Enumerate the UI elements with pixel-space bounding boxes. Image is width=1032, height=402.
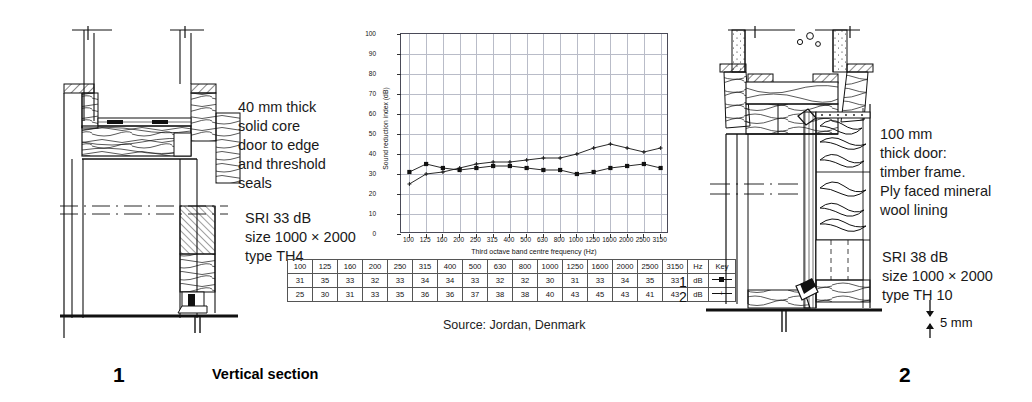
table-value-cell: 43 — [563, 288, 588, 302]
left-detail-description: 40 mm thick solid core door to edge and … — [238, 98, 368, 193]
table-value-cell: 32 — [513, 274, 538, 288]
table-value-cell: 35 — [313, 274, 338, 288]
data-point-marker — [474, 162, 478, 166]
table-header-cell: 400 — [438, 260, 463, 274]
table-value-cell: 33 — [338, 274, 363, 288]
table-row-number-1: 1 — [679, 274, 687, 290]
y-axis-tick-label: 80 — [356, 70, 376, 77]
y-axis-tick-label: 100 — [356, 30, 376, 37]
table-value-cell: 37 — [463, 288, 488, 302]
table-value-cell: 35 — [388, 288, 413, 302]
left-detail-performance: SRI 33 dB size 1000 × 2000 type TH4 — [245, 209, 385, 266]
caption-number-right: 2 — [899, 363, 911, 387]
table-header-cell: 630 — [488, 260, 513, 274]
data-point-marker — [525, 158, 529, 162]
table-value-cell: 25 — [288, 288, 313, 302]
table-value-cell: 34 — [413, 274, 438, 288]
table-value-cell: 36 — [413, 288, 438, 302]
y-axis-tick-label: 0 — [356, 230, 376, 237]
right-vertical-section-drawing — [700, 8, 885, 340]
source-note: Source: Jordan, Denmark — [443, 318, 585, 332]
table-value-cell: 34 — [613, 274, 638, 288]
data-table: 1001251602002503154005006308001000125016… — [287, 259, 736, 302]
table-value-cell: 31 — [338, 288, 363, 302]
chart-plot-area — [400, 33, 668, 233]
table-value-cell: 38 — [488, 288, 513, 302]
y-axis-tick-label: 10 — [356, 210, 376, 217]
table-value-cell: 43 — [613, 288, 638, 302]
chart-y-axis: Sound reduction index (dB) — [376, 33, 388, 233]
table-header-cell: 125 — [313, 260, 338, 274]
data-point-marker — [541, 156, 545, 160]
table-header-cell: 250 — [388, 260, 413, 274]
y-axis-tick-label: 30 — [356, 170, 376, 177]
data-point-marker — [508, 164, 512, 168]
table-header-cell: 1000 — [538, 260, 563, 274]
x-axis-tick-label: 125 — [420, 236, 431, 243]
data-point-marker — [642, 150, 646, 154]
left-vertical-section-drawing — [52, 18, 242, 338]
data-point-marker — [625, 146, 629, 150]
table-value-cell: 31 — [563, 274, 588, 288]
table-header-cell: 800 — [513, 260, 538, 274]
table-row-number-2: 2 — [679, 289, 687, 305]
table-value-cell: 35 — [638, 274, 663, 288]
table-header-row: 1001251602002503154005006308001000125016… — [288, 260, 736, 274]
right-detail-performance: SRI 38 dB size 1000 × 2000 type TH 10 — [882, 248, 1032, 305]
y-axis-label: Sound reduction index (dB) — [382, 36, 389, 222]
x-axis-tick-label: 400 — [503, 236, 514, 243]
caption-text-left: Vertical section — [212, 366, 318, 382]
table-header-cell: 1250 — [563, 260, 588, 274]
y-axis-tick-label: 50 — [356, 130, 376, 137]
x-axis-tick-label: 250 — [470, 236, 481, 243]
x-axis-tick-label: 1250 — [585, 236, 599, 243]
data-point-marker — [575, 152, 579, 156]
data-point-marker — [659, 146, 663, 150]
data-point-marker — [407, 182, 411, 186]
series-line-1 — [409, 164, 660, 174]
data-point-marker — [592, 146, 596, 150]
data-point-marker — [474, 166, 478, 170]
table-header-cell: 315 — [413, 260, 438, 274]
table-value-cell: 33 — [388, 274, 413, 288]
series-line-2 — [409, 144, 660, 184]
table-value-cell: 30 — [313, 288, 338, 302]
x-axis-tick-label: 3150 — [652, 236, 666, 243]
caption-number-left: 1 — [113, 363, 125, 387]
x-axis-tick-label: 160 — [436, 236, 447, 243]
table-value-cell: 32 — [363, 274, 388, 288]
table-header-cell: 200 — [363, 260, 388, 274]
x-axis-tick-label: 1600 — [602, 236, 616, 243]
table-value-cell: 38 — [513, 288, 538, 302]
sound-reduction-chart: Sound reduction index (dB) Third octave … — [378, 22, 678, 262]
data-point-marker — [592, 170, 596, 174]
data-point-marker — [491, 164, 495, 168]
data-point-marker — [424, 162, 428, 166]
data-point-marker — [575, 172, 579, 176]
table-header-cell: 2500 — [638, 260, 663, 274]
y-axis-tick-label: 70 — [356, 90, 376, 97]
table-value-cell: 32 — [488, 274, 513, 288]
y-axis-tick-label: 60 — [356, 110, 376, 117]
table-header-cell: 1600 — [588, 260, 613, 274]
x-axis-tick-label: 200 — [453, 236, 464, 243]
table-header-cell: 3150 — [663, 260, 688, 274]
data-point-marker — [541, 168, 545, 172]
data-point-marker — [441, 170, 445, 174]
figure-page: 40 mm thick solid core door to edge and … — [0, 0, 1032, 402]
x-axis-tick-label: 500 — [520, 236, 531, 243]
table-value-cell: 33 — [588, 274, 613, 288]
data-point-marker — [608, 166, 612, 170]
data-point-marker — [424, 172, 428, 176]
y-axis-tick-label: 20 — [356, 190, 376, 197]
table-value-cell: 30 — [538, 274, 563, 288]
table-value-cell: 36 — [438, 288, 463, 302]
right-detail-description: 100 mm thick door: timber frame. Ply fac… — [880, 125, 1030, 220]
x-axis-tick-label: 315 — [487, 236, 498, 243]
data-point-marker — [558, 168, 562, 172]
chart-series-layer — [401, 34, 669, 234]
table-value-cell: 40 — [538, 288, 563, 302]
data-point-marker — [558, 156, 562, 160]
x-axis-tick-label: 1000 — [569, 236, 583, 243]
data-point-marker — [491, 160, 495, 164]
